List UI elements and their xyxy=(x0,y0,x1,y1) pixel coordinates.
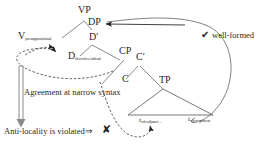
tree-node-cbar: C′ xyxy=(136,52,145,62)
tree-node-tp: TP xyxy=(159,75,171,85)
trace-wh-argument: twh-argument xyxy=(188,116,210,123)
tree-node-v-presuppositional: Vpresuppositional xyxy=(18,31,51,41)
tree-node-d-subscript: defective/affixal xyxy=(75,56,101,61)
check-glyph: ✔ xyxy=(201,29,209,40)
tree-node-d-defective-affixal: Ddefective/affixal xyxy=(68,51,101,61)
tree-node-cbar-label: C′ xyxy=(136,51,145,62)
tree-node-vp-label: VP xyxy=(78,4,91,15)
trace-wh-argument-subscript: wh-argument xyxy=(190,118,210,123)
tree-node-tp-label: TP xyxy=(159,74,171,85)
trace-wh-adjunct: twh-adjunct… xyxy=(139,117,162,124)
cross-mark-icon: ✘ xyxy=(102,124,111,135)
annotation-anti-locality-text: Anti-locality is violated⇒ xyxy=(4,126,93,136)
annotation-anti-locality: Anti-locality is violated⇒ xyxy=(4,127,93,136)
annotation-agreement-narrow-syntax: Agreement at narrow syntax xyxy=(24,88,121,97)
tree-node-c-label: C xyxy=(122,73,129,84)
figure-canvas: VP Vpresuppositional DP D′ Ddefective/af… xyxy=(0,0,267,150)
trace-wh-adjunct-subscript: wh-adjunct… xyxy=(141,119,162,124)
branch-vp-v xyxy=(62,21,84,38)
tree-node-v-subscript: presuppositional xyxy=(25,36,51,41)
arrow-to-dp xyxy=(106,24,185,25)
tree-node-dbar-label: D′ xyxy=(89,31,98,42)
tree-node-dp: DP xyxy=(88,17,101,27)
tree-node-vp: VP xyxy=(78,5,91,15)
tree-node-dp-label: DP xyxy=(88,16,101,27)
tree-node-c: C xyxy=(122,74,129,84)
check-mark-icon: ✔ xyxy=(201,30,209,40)
tp-triangle xyxy=(128,89,213,115)
annotation-agreement-text: Agreement at narrow syntax xyxy=(24,87,121,97)
tree-node-dbar: D′ xyxy=(89,32,98,42)
cross-glyph: ✘ xyxy=(102,123,111,136)
annotation-well-formed: well-formed xyxy=(212,31,254,40)
branch-cp-left xyxy=(102,60,124,84)
tree-node-cp-label: CP xyxy=(119,45,131,56)
annotation-well-formed-text: well-formed xyxy=(212,30,254,40)
tree-node-cp: CP xyxy=(119,46,131,56)
